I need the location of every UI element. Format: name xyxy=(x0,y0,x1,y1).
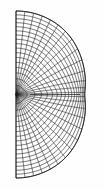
conformal-grid-figure: Conformal mapping grid on a half-disk wi… xyxy=(0,0,104,189)
grid-line-radial xyxy=(16,39,72,94)
figure-container: Conformal mapping grid on a half-disk wi… xyxy=(0,0,104,189)
grid-line-radial xyxy=(16,95,78,141)
grid-line-radial xyxy=(16,95,72,150)
grid-line-radial xyxy=(16,49,78,95)
